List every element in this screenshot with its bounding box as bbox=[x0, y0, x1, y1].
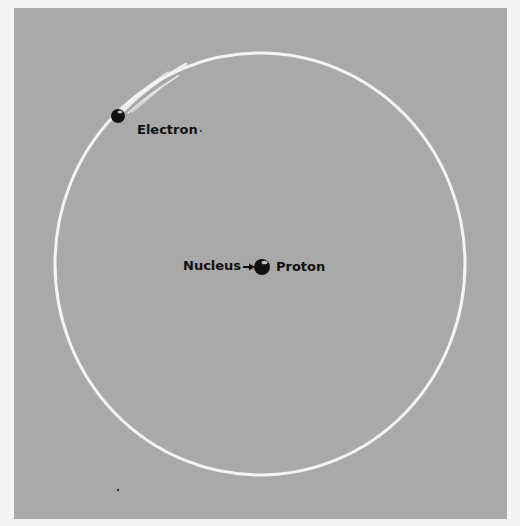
decorative-dot bbox=[200, 130, 202, 132]
nucleus-label: Nucleus bbox=[183, 258, 241, 273]
proton-particle bbox=[254, 259, 270, 275]
nucleus-arrow-icon bbox=[243, 264, 255, 271]
electron-label: Electron bbox=[137, 122, 198, 137]
electron-particle bbox=[111, 109, 125, 123]
proton-label: Proton bbox=[276, 259, 325, 274]
decorative-dot bbox=[117, 489, 119, 491]
atom-diagram bbox=[0, 0, 520, 526]
